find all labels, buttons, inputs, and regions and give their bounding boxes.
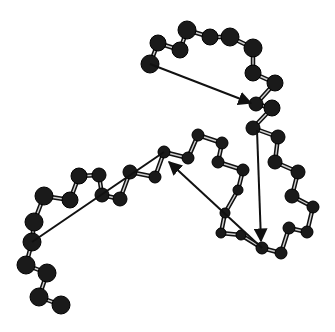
atom-node <box>275 247 287 259</box>
atom-node <box>267 75 283 91</box>
atom-node <box>249 97 263 111</box>
atom-node <box>202 29 218 45</box>
atom-node <box>268 155 282 169</box>
atom-node <box>150 35 166 51</box>
atom-node <box>291 165 305 179</box>
atom-node <box>212 156 224 168</box>
atom-node <box>237 164 249 176</box>
atom-node <box>30 288 48 306</box>
atom-node <box>283 222 295 234</box>
molecular-chain-diagram <box>0 0 335 332</box>
atom-node <box>149 171 161 183</box>
arrow <box>150 64 251 103</box>
atom-node <box>216 137 228 149</box>
atom-node <box>245 65 261 81</box>
atom-node <box>301 226 313 238</box>
atoms-layer <box>17 21 319 314</box>
arrows-layer <box>32 64 262 248</box>
atom-node <box>182 152 194 164</box>
atom-node <box>192 129 204 141</box>
atom-node <box>172 42 188 58</box>
atom-node <box>25 213 43 231</box>
atom-node <box>271 130 285 144</box>
diagram-canvas <box>0 0 335 332</box>
atom-node <box>221 28 239 46</box>
atom-node <box>52 296 70 314</box>
atom-node <box>178 21 196 39</box>
atom-node <box>244 39 262 57</box>
atom-node <box>17 256 35 274</box>
atom-node <box>113 192 127 206</box>
atom-node <box>233 185 243 195</box>
atom-node <box>92 168 106 182</box>
atom-node <box>307 201 319 213</box>
atom-node <box>216 228 226 238</box>
atom-node <box>71 168 87 184</box>
arrow <box>169 162 262 248</box>
atom-node <box>35 187 53 205</box>
atom-node <box>38 264 56 282</box>
arrow <box>257 130 261 241</box>
atom-node <box>62 192 78 208</box>
atom-node <box>285 189 299 203</box>
atom-node <box>264 100 280 116</box>
